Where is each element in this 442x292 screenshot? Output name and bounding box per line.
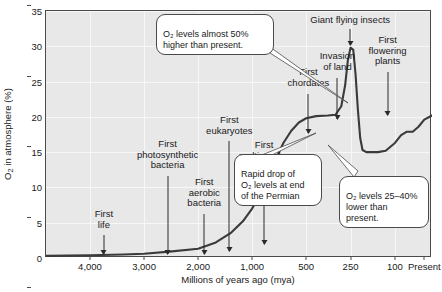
x-tick-label-Present: Present: [408, 261, 441, 272]
x-tick-label-100: 100: [387, 261, 403, 272]
x-tick-label-3000: 3,000: [132, 261, 156, 272]
event-arrow-1: [167, 176, 168, 254]
x-axis-label: Millions of years ago (mya): [45, 274, 431, 285]
event-label-first-flowering-plants: First flowering plants: [369, 35, 407, 67]
event-label-first-aerobic-bacteria: First aerobic bacteria: [187, 177, 221, 209]
event-arrow-2: [204, 214, 205, 254]
y-tick-label-5: 5: [37, 217, 42, 228]
y-tick-label-20: 20: [31, 111, 42, 122]
y-tick-label-15: 15: [31, 147, 42, 158]
x-tick-label-250: 250: [343, 261, 359, 272]
callout-low-oxygen: O₂ levels 25–40% lower than present.: [339, 176, 429, 228]
event-arrow-8: [387, 72, 388, 115]
event-label-first-life: First life: [95, 209, 113, 230]
y-tick-label-10: 10: [31, 182, 42, 193]
event-arrow-6: [337, 78, 338, 119]
event-label-first-eukaryotes: First eukaryotes: [206, 115, 252, 136]
y-tick-label-35: 35: [31, 6, 42, 17]
event-arrow-0: [103, 235, 104, 254]
event-label-giantflyinginsects: Giant flying insects: [310, 15, 390, 26]
x-tick-label-500: 500: [298, 261, 314, 272]
x-tick-label-4000: 4,000: [78, 261, 102, 272]
y-tick-mark-15: [27, 287, 31, 288]
event-label-first-photosynthetic-bacteria: First photosynthetic bacteria: [137, 139, 198, 171]
y-tick-label-0: 0: [37, 253, 42, 264]
event-arrow-5: [308, 94, 309, 133]
event-arrow-7: [350, 29, 351, 45]
event-label-invasion-ofland: Invasion of land: [320, 51, 355, 72]
callout-permian-drop: Rapid drop of O₂ levels at end of the Pe…: [234, 154, 322, 206]
oxygen-over-time-chart: O2 in atmosphere (%) 05101520253035 4,00…: [0, 0, 442, 292]
y-tick-mark-35: [27, 5, 31, 6]
y-tick-mark-30: [27, 76, 31, 77]
y-tick-label-25: 25: [31, 76, 42, 87]
y-tick-label-30: 30: [31, 41, 42, 52]
x-tick-label-2000: 2,000: [186, 261, 210, 272]
y-axis-label: O2 in atmosphere (%): [2, 88, 13, 180]
y-tick-mark-25: [27, 146, 31, 147]
plot-area: 05101520253035 4,0003,0002,0001,00050025…: [45, 10, 431, 257]
event-arrow-3: [229, 141, 230, 251]
y-tick-mark-20: [27, 217, 31, 218]
callout-high-oxygen: O₂ levels almost 50% higher than present…: [156, 14, 274, 55]
x-tick-label-1000: 1,000: [240, 261, 264, 272]
